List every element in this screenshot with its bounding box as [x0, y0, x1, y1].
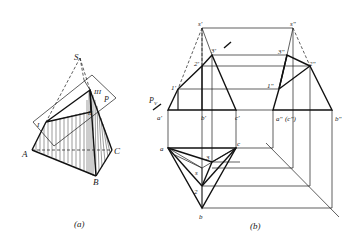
- label-3-prime: 3': [210, 47, 217, 55]
- label-a: a: [160, 145, 164, 153]
- label-s-dprime: s": [290, 20, 296, 28]
- label-A: A: [21, 149, 28, 159]
- label-b-prime: b': [201, 114, 207, 122]
- label-P: P: [103, 95, 109, 104]
- label-PV: PV: [148, 96, 158, 106]
- label-a-dprime: a": [276, 115, 283, 123]
- label-b: b: [199, 213, 203, 221]
- label-c: c: [237, 140, 241, 148]
- trace-pv-upper: [224, 42, 231, 48]
- label-c-dprime: (c"): [285, 115, 296, 123]
- label-C: C: [114, 146, 121, 156]
- label-III: III: [93, 88, 102, 96]
- label-c-prime: c': [235, 114, 240, 122]
- label-1-dprime: 1": [267, 82, 274, 90]
- label-B: B: [93, 177, 99, 187]
- cutting-plane-P: [33, 75, 116, 146]
- label-a-prime: a': [157, 114, 163, 122]
- hidden-edge-SA: [46, 58, 80, 122]
- section-hatching: [36, 91, 110, 176]
- figure-a-pictorial: S A B C I II III P (a): [21, 52, 121, 229]
- label-b-dprime: b": [335, 115, 342, 123]
- label-3-dprime: 3": [277, 48, 285, 56]
- label-2-prime: 2': [194, 60, 200, 68]
- label-2: 2: [194, 188, 198, 196]
- front-view: s' 3' 2' 1' PV a' b' c': [148, 20, 240, 122]
- pyramid-section-drawing: S A B C I II III P (a): [0, 0, 359, 250]
- miter-line: [266, 143, 339, 217]
- label-s: s: [195, 169, 198, 177]
- label-S: S: [74, 52, 79, 62]
- label-3: 3: [205, 154, 210, 162]
- top-view: a c b s 3 2: [160, 140, 241, 221]
- hidden-edge-SB: [80, 58, 90, 90]
- caption-a: (a): [74, 219, 85, 229]
- caption-b: (b): [250, 221, 261, 231]
- figure-b-orthographic: s' 3' 2' 1' PV a' b' c' s" 3" 2" 1" a" (…: [148, 20, 342, 231]
- side-view: s" 3" 2" 1" a" (c") b": [267, 20, 342, 123]
- label-2-dprime: 2": [309, 60, 316, 68]
- label-s-prime: s': [198, 20, 203, 28]
- label-I: I: [36, 121, 40, 129]
- label-1-prime: 1': [171, 84, 177, 92]
